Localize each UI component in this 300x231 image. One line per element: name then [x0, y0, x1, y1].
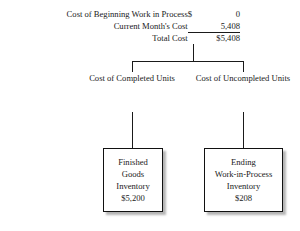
- connector-split-to-right-branch: [243, 61, 244, 72]
- connector-left-branch-to-box: [132, 112, 133, 148]
- branch-line-3: Units: [156, 73, 175, 83]
- terminal-line-2: Goods: [122, 168, 144, 180]
- row-label-total-cost: Total Cost: [14, 33, 188, 45]
- branch-line-2: Uncompleted: [223, 73, 269, 83]
- row-symbol-total-cost: [188, 33, 202, 45]
- terminal-line-1: Finished: [118, 156, 148, 168]
- table-row: Current Month's Cost 5,408: [14, 21, 240, 33]
- terminal-line-3: Inventory: [116, 180, 149, 192]
- branch-line-3: Units: [272, 73, 291, 83]
- cost-flow-diagram: Cost of Beginning Work in Process $ 0 Cu…: [0, 0, 300, 231]
- branch-line-2: Completed: [116, 73, 154, 83]
- terminal-line-3: Inventory: [227, 180, 260, 192]
- terminal-amount: $208: [235, 192, 252, 204]
- row-label-beginning-wip: Cost of Beginning Work in Process: [14, 9, 188, 21]
- branch-line-1: Cost of: [89, 73, 114, 83]
- branch-label-completed-units: Cost of Completed Units: [82, 73, 182, 84]
- terminal-amount: $5,200: [121, 192, 145, 204]
- table-row: Cost of Beginning Work in Process $ 0: [14, 9, 240, 21]
- connector-total-to-split: [193, 44, 194, 61]
- connector-split-to-left-branch: [132, 61, 133, 72]
- terminal-box-ending-wip: Ending Work-in-Process Inventory $208: [204, 148, 283, 212]
- connector-right-branch-to-box: [243, 112, 244, 148]
- branch-label-uncompleted-units: Cost of Uncompleted Units: [193, 73, 293, 84]
- terminal-line-1: Ending: [231, 156, 256, 168]
- branch-line-1: Cost of: [196, 73, 221, 83]
- row-amount-total-cost: $5,408: [201, 33, 240, 45]
- row-symbol-beginning-wip: $: [188, 9, 202, 21]
- row-label-current-month: Current Month's Cost: [14, 21, 188, 33]
- row-amount-current-month: 5,408: [201, 21, 240, 33]
- connector-split-horizontal: [132, 61, 243, 62]
- terminal-box-finished-goods: Finished Goods Inventory $5,200: [103, 148, 163, 212]
- table-row: Total Cost $5,408: [14, 33, 240, 45]
- terminal-line-2: Work-in-Process: [215, 168, 273, 180]
- row-symbol-current-month: [188, 21, 202, 33]
- row-amount-beginning-wip: 0: [201, 9, 240, 21]
- cost-summary-table: Cost of Beginning Work in Process $ 0 Cu…: [14, 9, 240, 45]
